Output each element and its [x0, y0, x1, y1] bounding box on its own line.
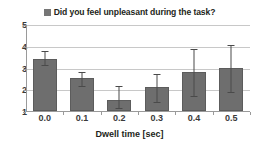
- error-cap-lower: [228, 92, 235, 93]
- error-bar: [231, 45, 232, 93]
- chart-title: Did you feel unpleasant during the task?: [0, 5, 259, 19]
- error-bar: [82, 72, 83, 86]
- plot-area: [26, 25, 250, 112]
- y-tick-mark: [23, 90, 26, 91]
- legend-swatch-icon: [44, 9, 51, 16]
- bar-chart: Did you feel unpleasant during the task?…: [0, 0, 259, 147]
- gridline: [26, 25, 250, 26]
- y-tick-mark: [23, 112, 26, 113]
- gridline: [26, 69, 250, 70]
- x-tick-label: 0.2: [113, 114, 126, 123]
- error-cap-lower: [153, 102, 160, 103]
- x-tick-label: 0.3: [150, 114, 163, 123]
- error-cap-lower: [79, 86, 86, 87]
- x-tick-mark: [250, 112, 251, 115]
- x-tick-mark: [175, 112, 176, 115]
- error-cap-lower: [41, 65, 48, 66]
- error-cap-upper: [153, 74, 160, 75]
- x-tick-mark: [213, 112, 214, 115]
- x-axis-title: Dwell time [sec]: [0, 130, 259, 139]
- error-cap-upper: [191, 49, 198, 50]
- error-cap-upper: [41, 51, 48, 52]
- x-tick-label: 0.0: [38, 114, 51, 123]
- error-cap-lower: [116, 108, 123, 109]
- x-tick-label: 0.1: [76, 114, 89, 123]
- bar-group: [70, 24, 94, 111]
- error-bar: [119, 86, 120, 108]
- gridline: [26, 47, 250, 48]
- x-tick-mark: [138, 112, 139, 115]
- gridline: [26, 90, 250, 91]
- x-tick-label: 0.5: [225, 114, 238, 123]
- x-tick-mark: [101, 112, 102, 115]
- y-axis-line: [26, 25, 27, 112]
- chart-title-text: Did you feel unpleasant during the task?: [54, 8, 216, 17]
- x-tick-label: 0.4: [188, 114, 201, 123]
- error-bar: [194, 49, 195, 96]
- y-tick-mark: [23, 25, 26, 26]
- error-cap-lower: [191, 96, 198, 97]
- y-tick-mark: [23, 47, 26, 48]
- error-cap-upper: [116, 86, 123, 87]
- x-tick-mark: [63, 112, 64, 115]
- bar: [33, 59, 57, 111]
- error-bar: [44, 51, 45, 65]
- y-tick-mark: [23, 69, 26, 70]
- error-cap-upper: [228, 45, 235, 46]
- bar-group: [33, 24, 57, 111]
- error-bar: [156, 74, 157, 102]
- error-cap-upper: [79, 72, 86, 73]
